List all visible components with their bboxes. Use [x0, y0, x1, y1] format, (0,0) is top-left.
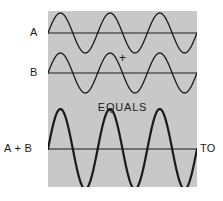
wave-b-label: B [30, 67, 38, 78]
wave-a-group [48, 13, 197, 53]
wave-sum-label: A + B [4, 143, 32, 154]
wave-sum-curve [48, 109, 197, 187]
wave-plot-svg [48, 11, 197, 187]
edge-text-label: TO [200, 143, 216, 154]
wave-panel: + EQUALS [48, 11, 197, 187]
operator-plus-symbol: + [48, 52, 197, 64]
wave-a-label: A [30, 27, 38, 38]
operator-equals-text: EQUALS [48, 102, 197, 113]
wave-interference-figure: + EQUALS A B A + B TO [0, 0, 223, 201]
wave-sum-group [48, 109, 197, 187]
